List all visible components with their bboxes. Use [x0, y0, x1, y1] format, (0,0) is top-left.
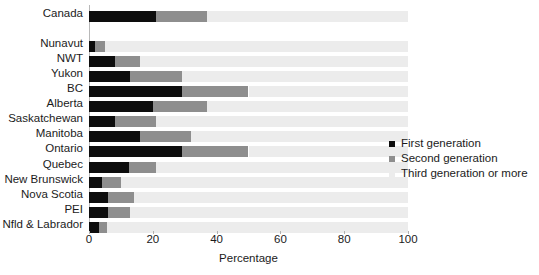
category-label: Nfld & Labrador: [2, 219, 83, 230]
bar-segment: [99, 222, 107, 233]
bar-segment: [107, 222, 408, 233]
bar-segment: [140, 56, 408, 67]
bar-segment: [89, 71, 130, 82]
bar-segment: [89, 131, 140, 142]
bar-row: New Brunswick: [89, 177, 408, 188]
bar-segment: [121, 177, 408, 188]
bar-segment: [89, 11, 156, 22]
bar-segment: [89, 101, 153, 112]
bar-segment: [191, 131, 408, 142]
x-tick-label: 80: [338, 233, 351, 245]
category-label: Canada: [43, 8, 83, 19]
chart-container: CanadaNunavutNWTYukonBCAlbertaSaskatchew…: [0, 0, 539, 275]
category-label: Manitoba: [36, 128, 83, 139]
chart-legend: First generationSecond generationThird g…: [389, 136, 528, 181]
category-label: Quebec: [43, 159, 83, 170]
category-label: Alberta: [47, 98, 83, 109]
legend-swatch-icon: [389, 156, 395, 162]
bar-segment: [115, 116, 156, 127]
legend-item: Second generation: [389, 151, 528, 166]
category-label: Nova Scotia: [21, 189, 83, 200]
legend-swatch-icon: [389, 141, 395, 147]
bar-segment: [129, 162, 156, 173]
legend-item: First generation: [389, 136, 528, 151]
bar-segment: [108, 192, 134, 203]
category-label: New Brunswick: [4, 174, 83, 185]
bar-row: Manitoba: [89, 131, 408, 142]
bar-segment: [156, 162, 408, 173]
bar-segment: [105, 41, 408, 52]
plot-area: CanadaNunavutNWTYukonBCAlbertaSaskatchew…: [89, 5, 408, 232]
bar-segment: [156, 116, 408, 127]
bar-segment: [89, 192, 108, 203]
bar-row: PEI: [89, 207, 408, 218]
bar-segment: [115, 56, 141, 67]
bar-row: Nova Scotia: [89, 192, 408, 203]
bar-segment: [89, 146, 182, 157]
bar-segment: [89, 162, 129, 173]
category-label: PEI: [64, 204, 83, 215]
x-axis-label: Percentage: [89, 252, 408, 264]
category-label: BC: [67, 83, 83, 94]
bar-row: Yukon: [89, 71, 408, 82]
bar-segment: [156, 11, 207, 22]
legend-label: Second generation: [401, 152, 498, 165]
category-label: Nunavut: [40, 38, 83, 49]
bar-row: Saskatchewan: [89, 116, 408, 127]
category-label: Ontario: [45, 143, 83, 154]
bar-row: Alberta: [89, 101, 408, 112]
x-tick-label: 60: [274, 233, 287, 245]
bar-row: Quebec: [89, 162, 408, 173]
bar-segment: [207, 11, 408, 22]
bar-segment: [89, 86, 182, 97]
legend-label: Third generation or more: [401, 167, 528, 180]
x-tick-label: 20: [146, 233, 159, 245]
bar-row: Ontario: [89, 146, 408, 157]
x-tick-label: 0: [86, 233, 92, 245]
x-tick-label: 40: [210, 233, 223, 245]
bar-row-spacer: [89, 26, 408, 37]
legend-swatch-icon: [389, 171, 395, 177]
bar-segment: [89, 207, 108, 218]
bar-segment: [89, 177, 102, 188]
bar-segment: [182, 71, 408, 82]
category-label: Yukon: [51, 68, 83, 79]
bar-segment: [89, 222, 99, 233]
legend-label: First generation: [401, 137, 481, 150]
bar-segment: [130, 71, 181, 82]
x-tick-label: 100: [398, 233, 417, 245]
category-label: Saskatchewan: [8, 113, 83, 124]
bar-segment: [153, 101, 207, 112]
bar-segment: [134, 192, 408, 203]
bar-row: BC: [89, 86, 408, 97]
bar-segment: [182, 86, 249, 97]
bar-segment: [140, 131, 191, 142]
bar-segment: [102, 177, 121, 188]
bar-segment: [130, 207, 408, 218]
bar-segment: [249, 86, 409, 97]
bar-segment: [182, 146, 249, 157]
legend-item: Third generation or more: [389, 166, 528, 181]
category-label: NWT: [57, 53, 83, 64]
bar-segment: [89, 56, 115, 67]
bar-row: Nunavut: [89, 41, 408, 52]
bar-segment: [89, 116, 115, 127]
bar-row: NWT: [89, 56, 408, 67]
bar-segment: [95, 41, 105, 52]
bar-row: Canada: [89, 11, 408, 22]
bar-segment: [207, 101, 408, 112]
bar-segment: [108, 207, 130, 218]
bar-row: Nfld & Labrador: [89, 222, 408, 233]
bar-segment: [249, 146, 409, 157]
